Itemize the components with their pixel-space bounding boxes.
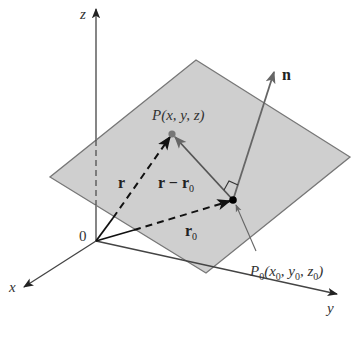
x-axis (24, 241, 96, 287)
point-P0 (229, 196, 237, 204)
point-P-label: P(x, y, z) (151, 107, 204, 124)
point-P0-label: P0(x0, y0, z0) (249, 263, 323, 282)
vector-n-label: n (282, 66, 291, 83)
point-P (168, 130, 175, 137)
plane-vector-diagram: z x y 0 P(x, y, z) P0(x0, y0, z0) r r − … (0, 0, 356, 338)
y-axis-label: y (325, 300, 334, 316)
x-axis-label: x (8, 279, 16, 295)
vector-r0-visible (96, 230, 134, 241)
z-axis-label: z (79, 6, 86, 22)
origin-label: 0 (79, 228, 87, 244)
vector-r-label: r (118, 174, 125, 191)
